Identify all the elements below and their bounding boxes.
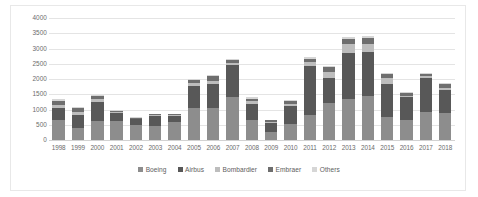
bar-segment-airbus bbox=[284, 106, 296, 124]
bar-segment-airbus bbox=[188, 86, 200, 108]
bar-slot bbox=[436, 18, 455, 140]
legend-swatch-icon bbox=[178, 167, 183, 172]
stacked-bar[interactable] bbox=[323, 66, 335, 140]
bar-segment-boeing bbox=[381, 117, 393, 140]
stacked-bar[interactable] bbox=[52, 99, 64, 140]
bar-slot bbox=[339, 18, 358, 140]
y-axis-tick-label: 1500 bbox=[13, 91, 47, 97]
bar-slot bbox=[126, 18, 145, 140]
bar-slot bbox=[281, 18, 300, 140]
legend-item-bombardier[interactable]: Bombardier bbox=[215, 166, 257, 173]
x-axis-tick-label: 2002 bbox=[126, 142, 145, 154]
legend-item-embraer[interactable]: Embraer bbox=[268, 166, 301, 173]
x-axis-tick-label: 2017 bbox=[416, 142, 435, 154]
x-axis-tick-label: 2008 bbox=[242, 142, 261, 154]
bar-segment-boeing bbox=[246, 120, 258, 140]
stacked-bar[interactable] bbox=[168, 114, 180, 140]
bar-segment-airbus bbox=[52, 108, 64, 120]
legend-label: Bombardier bbox=[223, 166, 258, 173]
bar-segment-airbus bbox=[342, 53, 354, 99]
stacked-bar[interactable] bbox=[188, 79, 200, 140]
x-axis-tick-label: 2009 bbox=[262, 142, 281, 154]
bar-slot bbox=[68, 18, 87, 140]
x-axis-tick-label: 2015 bbox=[378, 142, 397, 154]
bar-segment-boeing bbox=[265, 132, 277, 140]
stacked-bar[interactable] bbox=[149, 114, 161, 140]
bar-slot bbox=[320, 18, 339, 140]
legend-item-boeing[interactable]: Boeing bbox=[138, 166, 166, 173]
bar-segment-airbus bbox=[381, 84, 393, 117]
bar-segment-airbus bbox=[207, 84, 219, 108]
bar-segment-boeing bbox=[342, 99, 354, 140]
stacked-bar[interactable] bbox=[72, 107, 84, 140]
bar-slot bbox=[146, 18, 165, 140]
x-axis-tick-label: 2013 bbox=[339, 142, 358, 154]
stacked-bar[interactable] bbox=[400, 92, 412, 140]
bar-slot bbox=[49, 18, 68, 140]
x-axis: 1998199920002001200220032004200520062007… bbox=[49, 142, 455, 154]
bar-segment-boeing bbox=[362, 96, 374, 140]
y-axis-tick-label: 4000 bbox=[13, 15, 47, 21]
legend-label: Others bbox=[320, 166, 340, 173]
bar-segment-airbus bbox=[439, 90, 451, 113]
bar-segment-boeing bbox=[323, 103, 335, 140]
bar-segment-airbus bbox=[362, 52, 374, 96]
bar-segment-boeing bbox=[207, 108, 219, 140]
stacked-bar[interactable] bbox=[342, 37, 354, 140]
stacked-bar[interactable] bbox=[226, 59, 238, 140]
bar-segment-boeing bbox=[284, 124, 296, 140]
bar-segment-boeing bbox=[91, 121, 103, 140]
bar-segment-boeing bbox=[149, 126, 161, 140]
stacked-bar[interactable] bbox=[420, 73, 432, 140]
stacked-bar[interactable] bbox=[207, 75, 219, 140]
x-axis-tick-label: 2000 bbox=[88, 142, 107, 154]
x-axis-tick-label: 2016 bbox=[397, 142, 416, 154]
bar-segment-airbus bbox=[149, 116, 161, 125]
legend-item-others[interactable]: Others bbox=[312, 166, 340, 173]
bar-slot bbox=[358, 18, 377, 140]
x-axis-tick-label: 1999 bbox=[68, 142, 87, 154]
stacked-bar[interactable] bbox=[130, 117, 142, 140]
stacked-bar[interactable] bbox=[362, 36, 374, 140]
bar-segment-boeing bbox=[130, 125, 142, 140]
stacked-bar[interactable] bbox=[246, 97, 258, 140]
bar-segment-boeing bbox=[188, 108, 200, 140]
stacked-bar[interactable] bbox=[304, 57, 316, 140]
chart-plot-wrapper: 40003500300025002000150010005000 1998199… bbox=[11, 6, 467, 192]
stacked-bar[interactable] bbox=[381, 73, 393, 140]
y-axis-tick-label: 3500 bbox=[13, 30, 47, 36]
y-axis-tick-label: 500 bbox=[13, 122, 47, 128]
stacked-bar[interactable] bbox=[91, 95, 103, 140]
bar-segment-boeing bbox=[52, 120, 64, 140]
x-axis-tick-label: 2006 bbox=[204, 142, 223, 154]
legend-swatch-icon bbox=[312, 167, 317, 172]
x-axis-tick-label: 2010 bbox=[281, 142, 300, 154]
x-axis-tick-label: 2011 bbox=[300, 142, 319, 154]
bar-slot bbox=[223, 18, 242, 140]
y-axis-tick-label: 2500 bbox=[13, 61, 47, 67]
plot-area bbox=[49, 18, 455, 140]
legend-item-airbus[interactable]: Airbus bbox=[178, 166, 205, 173]
bar-segment-bombardier bbox=[362, 44, 374, 52]
bar-segment-boeing bbox=[420, 112, 432, 140]
bar-segment-airbus bbox=[72, 115, 84, 128]
x-axis-tick-label: 2007 bbox=[223, 142, 242, 154]
bar-slot bbox=[300, 18, 319, 140]
stacked-bar[interactable] bbox=[284, 100, 296, 140]
x-axis-tick-label: 2003 bbox=[146, 142, 165, 154]
stacked-bar[interactable] bbox=[110, 110, 122, 140]
bar-slot bbox=[242, 18, 261, 140]
bar-segment-airbus bbox=[110, 113, 122, 121]
bar-segment-boeing bbox=[439, 113, 451, 140]
stacked-bar[interactable] bbox=[439, 83, 451, 140]
x-axis-tick-label: 2004 bbox=[165, 142, 184, 154]
legend-swatch-icon bbox=[138, 167, 143, 172]
y-axis-tick-label: 2000 bbox=[13, 76, 47, 82]
stacked-bar[interactable] bbox=[265, 120, 277, 140]
bar-segment-boeing bbox=[110, 121, 122, 140]
bar-segment-airbus bbox=[304, 66, 316, 115]
x-axis-tick-label: 2018 bbox=[436, 142, 455, 154]
y-axis: 40003500300025002000150010005000 bbox=[13, 18, 47, 140]
x-axis-tick-label: 2012 bbox=[320, 142, 339, 154]
bar-slot bbox=[262, 18, 281, 140]
